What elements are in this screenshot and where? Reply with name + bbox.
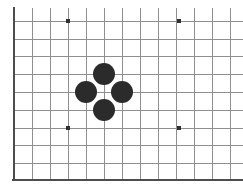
black-stone-bottom bbox=[93, 99, 115, 121]
board-canvas bbox=[0, 0, 243, 195]
star-point-top-right bbox=[177, 19, 181, 23]
star-point-bottom-left bbox=[66, 126, 70, 130]
star-point-bottom-right bbox=[177, 126, 181, 130]
black-stone-left bbox=[75, 81, 97, 103]
black-stone-top bbox=[93, 63, 115, 85]
go-board-diagram bbox=[0, 0, 243, 195]
star-point-top-left bbox=[66, 19, 70, 23]
black-stone-right bbox=[111, 81, 133, 103]
